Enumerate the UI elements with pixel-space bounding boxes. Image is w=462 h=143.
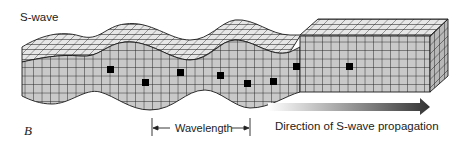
propagation-arrow	[268, 98, 430, 115]
particle-marker	[107, 66, 114, 73]
wavelength-label: Wavelength	[175, 122, 233, 134]
particle-marker	[244, 80, 251, 87]
wave-type-label: S-wave	[20, 11, 58, 23]
direction-label: Direction of S-wave propagation	[275, 120, 439, 132]
particle-marker	[293, 63, 300, 70]
particle-marker	[270, 78, 277, 85]
particle-marker	[346, 63, 353, 70]
particle-marker	[217, 72, 224, 79]
particle-marker	[142, 79, 149, 86]
figure-letter: B	[24, 123, 32, 139]
particle-marker	[177, 69, 184, 76]
undisturbed-block-front	[300, 36, 430, 92]
